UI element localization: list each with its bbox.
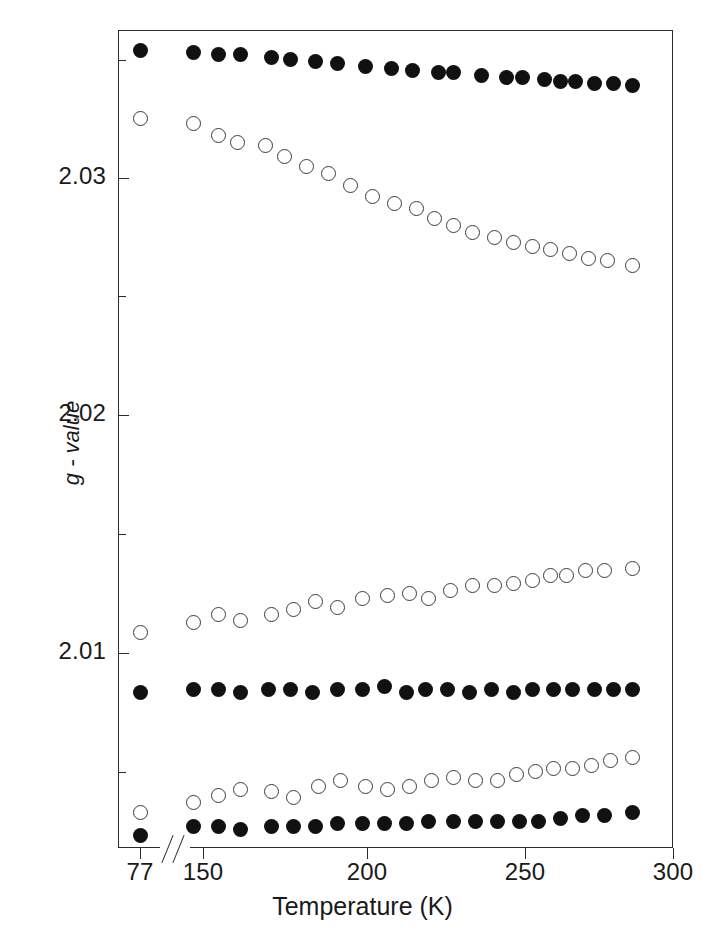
data-point-upper-open xyxy=(581,251,596,266)
data-point-middle-open xyxy=(525,573,540,588)
data-point-upper-filled xyxy=(308,54,323,69)
data-point-lower-filled xyxy=(233,822,248,837)
data-point-middle-open xyxy=(308,594,323,609)
data-point-lower-open xyxy=(133,805,148,820)
data-point-upper-filled xyxy=(405,63,420,78)
data-point-lower-open xyxy=(402,779,417,794)
data-point-upper-filled xyxy=(211,47,226,62)
data-point-upper-open xyxy=(387,196,402,211)
y-tick-minor xyxy=(118,60,126,61)
data-point-upper-open xyxy=(258,138,273,153)
data-point-lower-filled xyxy=(186,819,201,834)
data-point-upper-open xyxy=(487,230,502,245)
data-point-upper-open xyxy=(409,201,424,216)
data-point-middle-open xyxy=(402,586,417,601)
data-point-middle-open xyxy=(421,591,436,606)
y-tick-major xyxy=(118,415,129,416)
data-point-lower-filled xyxy=(553,811,568,826)
data-point-lower-open xyxy=(358,779,373,794)
data-point-lower-filled xyxy=(377,816,392,831)
data-point-middle-filled xyxy=(606,682,621,697)
x-tick-label: 250 xyxy=(480,858,570,886)
data-point-upper-open xyxy=(211,128,226,143)
data-point-upper-filled xyxy=(446,65,461,80)
y-axis-title: g - value xyxy=(59,363,85,523)
data-point-lower-filled xyxy=(575,808,590,823)
data-point-lower-open xyxy=(264,784,279,799)
data-point-middle-filled xyxy=(355,682,370,697)
data-point-lower-open xyxy=(490,773,505,788)
data-point-middle-filled xyxy=(506,685,521,700)
axis-break-marker xyxy=(158,832,192,868)
data-point-middle-filled xyxy=(399,685,414,700)
data-point-middle-open xyxy=(625,561,640,576)
data-point-lower-filled xyxy=(490,814,505,829)
data-point-middle-filled xyxy=(565,682,580,697)
data-point-middle-filled xyxy=(261,682,276,697)
data-point-upper-filled xyxy=(283,52,298,67)
data-point-upper-filled xyxy=(568,74,583,89)
data-point-middle-open xyxy=(443,583,458,598)
data-point-upper-open xyxy=(562,246,577,261)
data-point-upper-open xyxy=(365,189,380,204)
data-point-lower-open xyxy=(286,790,301,805)
data-point-middle-filled xyxy=(330,682,345,697)
data-point-middle-open xyxy=(286,602,301,617)
y-tick-minor xyxy=(118,772,126,773)
data-point-lower-open xyxy=(546,761,561,776)
data-point-upper-filled xyxy=(186,45,201,60)
data-point-upper-open xyxy=(299,159,314,174)
data-point-upper-filled xyxy=(431,65,446,80)
data-point-middle-filled xyxy=(625,682,640,697)
data-point-middle-filled xyxy=(233,685,248,700)
data-point-middle-filled xyxy=(211,682,226,697)
data-point-middle-open xyxy=(543,568,558,583)
data-point-upper-open xyxy=(133,111,148,126)
data-point-lower-filled xyxy=(308,819,323,834)
y-tick-label: 2.03 xyxy=(28,162,106,190)
data-point-middle-filled xyxy=(587,682,602,697)
data-point-lower-open xyxy=(584,758,599,773)
data-point-upper-open xyxy=(277,149,292,164)
data-point-upper-open xyxy=(230,135,245,150)
data-point-middle-open xyxy=(264,607,279,622)
data-point-middle-filled xyxy=(484,682,499,697)
data-point-lower-filled xyxy=(446,814,461,829)
data-point-lower-open xyxy=(233,782,248,797)
data-point-upper-filled xyxy=(384,61,399,76)
data-point-lower-open xyxy=(211,788,226,803)
data-point-upper-filled xyxy=(515,70,530,85)
data-point-middle-open xyxy=(211,607,226,622)
data-point-upper-filled xyxy=(499,70,514,85)
data-point-middle-open xyxy=(233,613,248,628)
data-point-middle-filled xyxy=(186,682,201,697)
data-point-upper-open xyxy=(343,178,358,193)
data-point-lower-filled xyxy=(355,816,370,831)
data-point-middle-filled xyxy=(525,682,540,697)
y-tick-major xyxy=(118,653,129,654)
data-point-upper-open xyxy=(465,225,480,240)
data-point-lower-filled xyxy=(286,819,301,834)
x-axis-title: Temperature (K) xyxy=(0,892,725,921)
x-tick-label: 300 xyxy=(628,858,718,886)
data-point-lower-filled xyxy=(264,819,279,834)
data-point-upper-open xyxy=(427,211,442,226)
data-point-middle-filled xyxy=(377,679,392,694)
data-point-lower-filled xyxy=(531,814,546,829)
data-point-middle-open xyxy=(597,563,612,578)
data-point-upper-filled xyxy=(553,74,568,89)
data-point-lower-filled xyxy=(512,814,527,829)
figure-container: 2.032.022.01 77150200250300 g - value Te… xyxy=(0,0,725,932)
data-point-upper-open xyxy=(506,235,521,250)
data-point-middle-filled xyxy=(418,682,433,697)
data-point-upper-open xyxy=(321,166,336,181)
data-point-upper-open xyxy=(446,218,461,233)
data-point-middle-filled xyxy=(283,682,298,697)
data-point-upper-open xyxy=(600,253,615,268)
data-point-upper-open xyxy=(186,116,201,131)
data-point-upper-filled xyxy=(587,76,602,91)
data-point-upper-filled xyxy=(330,56,345,71)
plot-frame xyxy=(118,30,673,848)
data-point-middle-open xyxy=(380,588,395,603)
data-point-lower-filled xyxy=(399,816,414,831)
